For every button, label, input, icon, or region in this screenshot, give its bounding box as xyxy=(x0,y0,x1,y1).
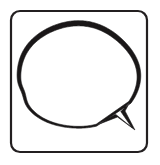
icon-canvas: Hand-drawn speech balloon inside a round… xyxy=(0,0,160,165)
speech-bubble-icon xyxy=(0,0,160,165)
